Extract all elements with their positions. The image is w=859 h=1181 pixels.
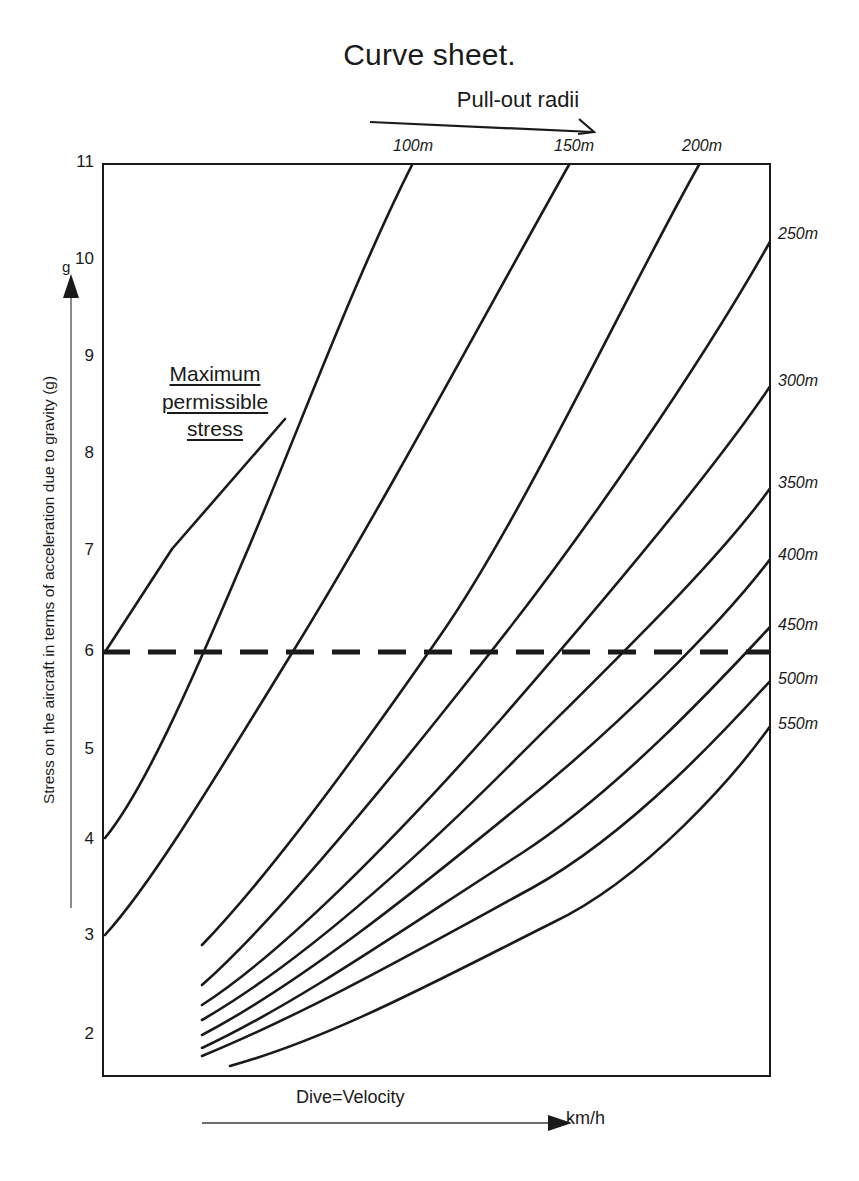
chart-canvas: Curve sheet. Pull-out radii 11 10 9 8 7 …: [0, 0, 859, 1181]
curve-label-550m: 550m: [778, 715, 818, 733]
x-axis-caption: Dive=Velocity: [296, 1087, 405, 1108]
plot-curves: [102, 163, 771, 1077]
curve-label-250m: 250m: [778, 225, 818, 243]
curve-100m: [105, 163, 413, 838]
curve-label-300m: 300m: [778, 372, 818, 390]
max-stress-line-2: permissible: [162, 390, 268, 413]
curve-label-350m: 350m: [778, 474, 818, 492]
curve-label-200m: 200m: [682, 137, 722, 155]
curve-label-100m: 100m: [393, 137, 433, 155]
curve-label-500m: 500m: [778, 670, 818, 688]
pullout-radii-label: Pull-out radii: [457, 88, 579, 114]
x-axis-arrow-icon: [200, 1112, 580, 1134]
x-axis-unit-label: km/h: [566, 1108, 605, 1129]
y-tick-2: 2: [54, 1024, 94, 1044]
y-tick-11: 11: [54, 152, 94, 172]
max-stress-line-1: Maximum: [169, 362, 260, 385]
curve-max-permissible-stress: [105, 419, 285, 652]
curve-150m: [105, 163, 570, 935]
curve-200m: [202, 163, 700, 945]
max-stress-line-3: stress: [187, 417, 243, 440]
y-tick-3: 3: [54, 925, 94, 945]
pullout-radii-arrow-icon: [368, 116, 603, 138]
curve-250m: [202, 240, 771, 985]
pullout-radii-heading: Pull-out radii: [388, 88, 648, 114]
curve-label-150m: 150m: [554, 137, 594, 155]
y-axis-arrow-icon: [56, 268, 86, 908]
page-title: Curve sheet.: [0, 38, 859, 72]
curve-label-400m: 400m: [778, 546, 818, 564]
curve-label-450m: 450m: [778, 616, 818, 634]
max-permissible-stress-annotation: Maximum permissible stress: [130, 360, 300, 443]
